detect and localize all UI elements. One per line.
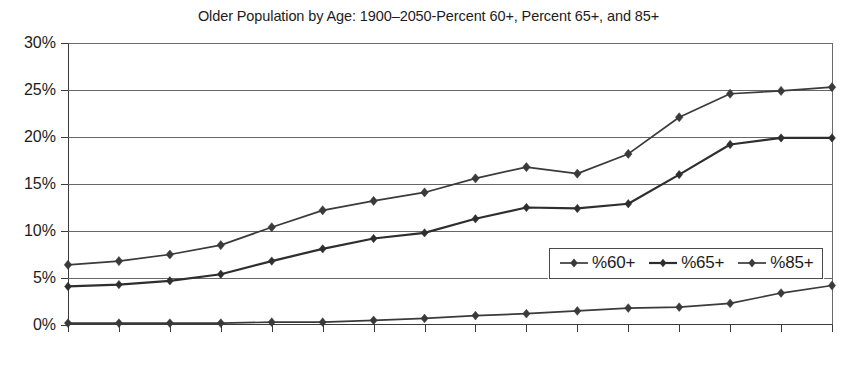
data-point-marker: [727, 299, 734, 308]
y-axis-label: 20%: [0, 128, 56, 146]
data-point-marker: [421, 229, 428, 237]
series-layer: [68, 43, 833, 325]
data-point-marker: [472, 174, 480, 183]
data-point-marker: [523, 309, 530, 318]
x-axis-tick: [628, 325, 629, 332]
y-axis-label: 25%: [0, 81, 56, 99]
legend-marker-icon: [559, 256, 589, 270]
data-point-marker: [115, 280, 122, 288]
data-point-marker: [676, 303, 683, 312]
data-point-marker: [625, 200, 632, 208]
y-axis-label: 5%: [0, 269, 56, 287]
data-point-marker: [523, 203, 530, 211]
data-point-marker: [472, 311, 479, 320]
legend-item: %65+: [648, 253, 724, 273]
data-point-marker: [624, 149, 632, 158]
y-axis-tick: [61, 184, 68, 185]
x-axis-tick: [730, 325, 731, 332]
data-point-marker: [421, 314, 428, 323]
data-point-marker: [829, 134, 836, 142]
data-point-marker: [370, 316, 377, 325]
data-point-marker: [828, 281, 835, 290]
data-point-marker: [370, 196, 378, 205]
x-axis-tick: [679, 325, 680, 332]
y-axis-tick: [61, 231, 68, 232]
y-axis-label: 0%: [0, 316, 56, 334]
data-point-marker: [64, 260, 72, 269]
data-point-marker: [268, 223, 276, 232]
y-axis-tick: [61, 137, 68, 138]
chart-title: Older Population by Age: 1900–2050-Perce…: [0, 8, 857, 24]
data-point-marker: [778, 134, 785, 142]
data-point-marker: [268, 318, 275, 327]
legend-label: %65+: [681, 253, 724, 273]
x-axis-tick: [425, 325, 426, 332]
series-85: [64, 281, 835, 327]
data-point-marker: [727, 140, 734, 148]
x-axis-tick: [526, 325, 527, 332]
data-point-marker: [370, 234, 377, 242]
data-point-marker: [523, 162, 531, 171]
data-point-marker: [319, 245, 326, 253]
x-axis-tick: [475, 325, 476, 332]
chart-legend: %60+%65+%85+: [549, 248, 823, 279]
data-point-marker: [319, 318, 326, 327]
data-point-marker: [625, 304, 632, 313]
data-point-marker: [115, 256, 123, 265]
data-point-marker: [166, 319, 173, 328]
legend-marker-icon: [737, 256, 767, 270]
legend-item: %85+: [737, 253, 813, 273]
x-axis-tick: [832, 325, 833, 332]
data-point-marker: [268, 257, 275, 265]
y-axis-label: 15%: [0, 175, 56, 193]
y-axis-label: 30%: [0, 34, 56, 52]
data-point-marker: [166, 250, 174, 259]
y-axis-tick: [61, 90, 68, 91]
data-point-marker: [217, 270, 224, 278]
data-point-marker: [777, 86, 785, 95]
plot-area: 0%5%10%15%20%25%30% 19001910192019301940…: [68, 43, 833, 325]
data-point-marker: [574, 204, 581, 212]
data-point-marker: [421, 188, 429, 197]
data-point-marker: [217, 241, 225, 250]
x-axis-tick: [781, 325, 782, 332]
data-point-marker: [676, 170, 683, 178]
legend-marker-icon: [648, 256, 678, 270]
data-point-marker: [828, 83, 836, 92]
data-point-marker: [472, 215, 479, 223]
data-point-marker: [64, 319, 71, 328]
y-axis-label: 10%: [0, 222, 56, 240]
x-axis-tick: [577, 325, 578, 332]
series-60: [64, 83, 836, 270]
data-point-marker: [115, 319, 122, 328]
data-point-marker: [726, 89, 734, 98]
data-point-marker: [574, 307, 581, 316]
data-point-marker: [217, 319, 224, 328]
legend-item: %60+: [559, 253, 635, 273]
y-axis-tick: [61, 43, 68, 44]
data-point-marker: [675, 113, 683, 122]
data-point-marker: [319, 206, 327, 215]
data-point-marker: [65, 282, 72, 290]
y-axis-tick: [61, 278, 68, 279]
data-point-marker: [777, 289, 784, 298]
legend-label: %60+: [592, 253, 635, 273]
series-line: [68, 87, 832, 265]
x-axis-tick: [374, 325, 375, 332]
series-line: [68, 286, 832, 324]
chart-container: Older Population by Age: 1900–2050-Perce…: [0, 0, 857, 374]
data-point-marker: [574, 169, 582, 178]
legend-label: %85+: [770, 253, 813, 273]
data-point-marker: [166, 277, 173, 285]
